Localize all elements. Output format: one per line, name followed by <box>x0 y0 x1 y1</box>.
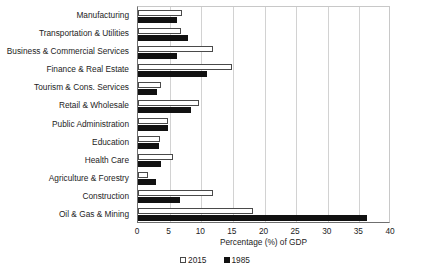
x-tick-label-5: 5 <box>166 225 171 237</box>
bar-group <box>138 152 389 170</box>
bar-rows <box>138 7 389 222</box>
plot-area <box>137 6 390 223</box>
bar-2015 <box>138 28 181 34</box>
category-label: Health Care <box>85 155 129 165</box>
x-tick-label-35: 35 <box>354 225 363 237</box>
bar-2015 <box>138 154 173 160</box>
bar-group <box>138 25 389 43</box>
bar-group <box>138 97 389 115</box>
bar-chart: ManufacturingTransportation & UtilitiesB… <box>0 0 430 274</box>
bar-1985 <box>138 143 159 149</box>
category-label: Business & Commercial Services <box>7 46 129 56</box>
legend-item-2015: 2015 <box>180 255 206 265</box>
bar-1985 <box>138 197 180 203</box>
bar-2015 <box>138 190 213 196</box>
bar-1985 <box>138 161 161 167</box>
category-label: Education <box>92 137 129 147</box>
x-tick-label-20: 20 <box>259 225 268 237</box>
bar-group <box>138 79 389 97</box>
legend-swatch-icon-2015 <box>180 257 186 263</box>
bar-group <box>138 43 389 61</box>
bar-1985 <box>138 71 207 77</box>
bar-group <box>138 116 389 134</box>
bar-1985 <box>138 89 157 95</box>
category-label: Agriculture & Forestry <box>49 173 129 183</box>
category-label: Transportation & Utilities <box>39 28 129 38</box>
category-label: Manufacturing <box>76 10 129 20</box>
legend: 2015 1985 <box>0 255 430 265</box>
bar-1985 <box>138 215 367 221</box>
legend-swatch-icon-1985 <box>224 257 230 263</box>
x-tick-label-10: 10 <box>196 225 205 237</box>
x-tick-label-25: 25 <box>291 225 300 237</box>
x-axis-tick-labels: 0510152025303540 <box>0 225 430 237</box>
bar-2015 <box>138 64 232 70</box>
bar-1985 <box>138 17 177 23</box>
bar-group <box>138 206 389 224</box>
x-tick-label-30: 30 <box>322 225 331 237</box>
legend-label-2015: 2015 <box>188 255 206 265</box>
bar-1985 <box>138 125 168 131</box>
category-axis-labels: ManufacturingTransportation & UtilitiesB… <box>0 6 133 223</box>
bar-2015 <box>138 100 199 106</box>
category-label: Public Administration <box>52 119 129 129</box>
bar-2015 <box>138 118 168 124</box>
bar-group <box>138 61 389 79</box>
category-label: Retail & Wholesale <box>59 100 129 110</box>
category-label: Tourism & Cons. Services <box>34 82 129 92</box>
bar-2015 <box>138 82 161 88</box>
x-axis-title: Percentage (%) of GDP <box>137 237 390 247</box>
category-label: Finance & Real Estate <box>46 64 129 74</box>
bar-group <box>138 134 389 152</box>
x-tick-label-0: 0 <box>135 225 140 237</box>
bar-2015 <box>138 172 148 178</box>
bar-2015 <box>138 46 213 52</box>
bar-group <box>138 170 389 188</box>
bar-1985 <box>138 53 177 59</box>
bar-1985 <box>138 179 156 185</box>
category-label: Oil & Gas & Mining <box>59 209 129 219</box>
bar-group <box>138 7 389 25</box>
bar-2015 <box>138 10 182 16</box>
bar-2015 <box>138 208 253 214</box>
bar-group <box>138 188 389 206</box>
x-tick-label-15: 15 <box>227 225 236 237</box>
bar-2015 <box>138 136 160 142</box>
legend-label-1985: 1985 <box>232 255 250 265</box>
bar-1985 <box>138 35 188 41</box>
legend-item-1985: 1985 <box>224 255 250 265</box>
category-label: Construction <box>82 191 129 201</box>
bar-1985 <box>138 107 191 113</box>
x-tick-label-40: 40 <box>385 225 394 237</box>
